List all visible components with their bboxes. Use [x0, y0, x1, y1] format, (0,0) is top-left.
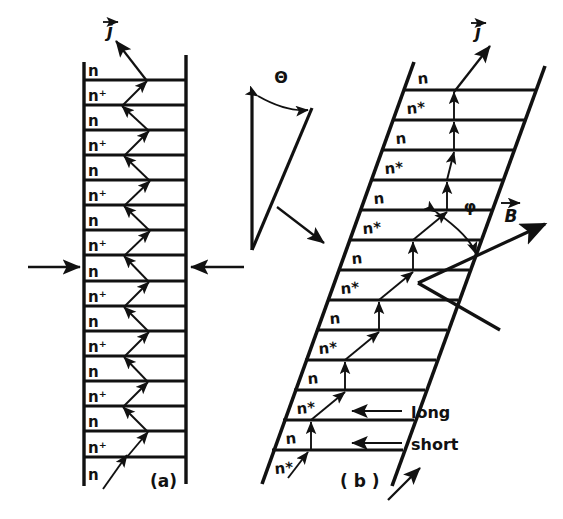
panel-a-label-8: n	[88, 263, 99, 281]
panel-a-current-vector-arrow	[116, 41, 147, 81]
panel-a-layer-labels: n n⁺ n n⁺ n n⁺ n n⁺ n n⁺ n n⁺ n n⁺ n n⁺ …	[88, 62, 107, 484]
panel-a-label-10: n	[88, 313, 99, 331]
panel-a-label-6: n	[88, 212, 99, 230]
panel-a-label-9: n⁺	[88, 288, 107, 306]
theta-angle-arc	[258, 96, 308, 110]
panel-a-label-2: n	[88, 112, 99, 130]
figure-canvas: n n⁺ n n⁺ n n⁺ n n⁺ n n⁺ n n⁺ n n⁺ n n⁺ …	[0, 0, 563, 519]
panel-a-group	[28, 41, 244, 489]
panel-a-label-7: n⁺	[88, 237, 107, 255]
panel-b-current-vector-arrow	[454, 46, 490, 92]
panel-b-short-label: short	[411, 435, 459, 454]
panel-b-right-rail	[392, 66, 545, 486]
panel-b-label-2: n	[395, 129, 407, 148]
panel-a-current-vector-label: j	[104, 21, 114, 41]
panel-a-label-1: n⁺	[88, 87, 107, 105]
panel-a-label-14: n	[88, 413, 99, 431]
panel-b-side-injection-arrow	[277, 207, 324, 243]
panel-b-label-4: n	[373, 189, 385, 208]
panel-b-phi-arc	[436, 212, 476, 254]
panel-b-long-label: long	[411, 403, 450, 422]
panel-b-label-10: n	[307, 369, 319, 388]
panel-a-label-3: n⁺	[88, 137, 107, 155]
panel-a-caption: (a)	[150, 471, 177, 491]
panel-b-label-6: n	[351, 249, 363, 268]
panel-b-label-9: n*	[318, 338, 338, 358]
diagram-svg: n n⁺ n n⁺ n n⁺ n n⁺ n n⁺ n n⁺ n n⁺ n n⁺ …	[0, 0, 563, 519]
theta-angle-label: Θ	[274, 68, 288, 87]
panel-b-construction-ray	[418, 283, 500, 330]
panel-b-label-1: n*	[406, 98, 426, 118]
panel-b-label-0: n	[417, 69, 429, 88]
panel-b-label-12: n	[285, 429, 297, 448]
panel-b-label-8: n	[329, 309, 341, 328]
panel-b-label-3: n*	[384, 158, 404, 178]
panel-b-phi-label: φ	[464, 197, 477, 216]
panel-b-group	[262, 46, 545, 500]
panel-a-label-16: n	[88, 466, 99, 484]
panel-a-label-0: n	[88, 62, 99, 80]
panel-b-label-5: n*	[362, 218, 382, 238]
panel-a-label-4: n	[88, 162, 99, 180]
panel-b-label-7: n*	[340, 278, 360, 298]
theta-hypotenuse	[252, 108, 312, 250]
panel-a-label-12: n	[88, 363, 99, 381]
panel-b-layer-labels: n n* n n* n n* n n* n n* n n* n n*	[274, 69, 429, 478]
panel-a-label-5: n⁺	[88, 187, 107, 205]
panel-b-label-13: n*	[274, 458, 294, 478]
panel-a-current-path	[103, 81, 150, 489]
panel-a-label-13: n⁺	[88, 388, 107, 406]
panel-b-label-11: n*	[296, 398, 316, 418]
panel-b-field-vector-label: B	[505, 206, 518, 226]
panel-a-label-15: n⁺	[88, 439, 107, 457]
panel-b-current-vector-label: j	[472, 22, 482, 42]
panel-b-caption: ( b )	[340, 471, 380, 491]
panel-a-label-11: n⁺	[88, 338, 107, 356]
panel-b-field-vector-arrow	[418, 224, 545, 283]
